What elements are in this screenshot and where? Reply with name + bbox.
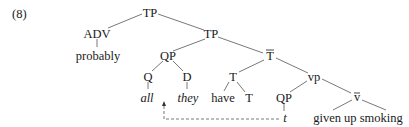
node-tp-root: TP: [143, 6, 158, 20]
edge-tp-adv: [108, 14, 142, 28]
edge-tp-qp: [173, 39, 205, 51]
dashed-path: [164, 106, 279, 119]
edge-vbar-left: [333, 100, 352, 110]
word-given-up-smoking: given up smoking: [313, 111, 403, 125]
node-t: T: [229, 70, 237, 84]
edge-vp-qp: [290, 81, 307, 92]
node-t-sub: T: [245, 91, 253, 105]
edge-tbar-vp: [276, 58, 308, 73]
word-trace: t: [283, 111, 287, 125]
edge-tp-tp: [158, 14, 204, 30]
node-adv: ADV: [83, 27, 110, 41]
edge-vbar-right: [362, 100, 386, 110]
node-v-bar: v: [354, 90, 361, 104]
edge-t-tsub: [237, 82, 245, 92]
syntax-tree: (8) TP ADV probably TP QP Q all D they T…: [0, 0, 409, 127]
word-probably: probably: [76, 49, 121, 63]
node-vp: vp: [308, 70, 321, 84]
example-number: (8): [12, 7, 27, 21]
word-all: all: [140, 91, 154, 105]
node-t-bar: T: [266, 49, 274, 63]
node-tp-inner: TP: [204, 27, 219, 41]
edge-tbar-t: [239, 60, 264, 72]
edge-tp-tbar: [218, 37, 263, 53]
word-have: have: [211, 91, 235, 105]
node-qp: QP: [160, 49, 176, 63]
word-they: they: [178, 91, 199, 105]
node-q: Q: [143, 70, 152, 84]
edge-vp-vbar: [322, 79, 351, 93]
node-qp-trace: QP: [276, 91, 292, 105]
arrowhead-icon: [162, 101, 166, 106]
node-d: D: [182, 70, 191, 84]
